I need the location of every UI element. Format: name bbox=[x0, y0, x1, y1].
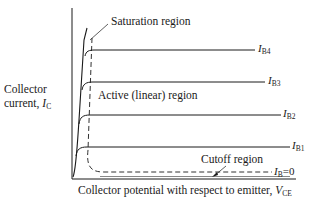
saturation-leader bbox=[90, 24, 108, 40]
curve-label-ib3: IB3 bbox=[268, 74, 280, 88]
y-axis-label-line1: Collector bbox=[4, 82, 51, 96]
y-axis-label-line2: current, IC bbox=[4, 96, 51, 114]
cutoff-region-label: Cutoff region bbox=[201, 153, 263, 166]
curve-ib2 bbox=[79, 115, 281, 124]
curve-label-ib4: IB4 bbox=[258, 42, 270, 56]
curve-label-ib0: IB=0 bbox=[274, 165, 294, 179]
curve-label-ib1: IB1 bbox=[292, 139, 304, 153]
saturation-region-label: Saturation region bbox=[111, 15, 191, 28]
curve-label-ib2: IB2 bbox=[283, 107, 295, 121]
curve-ib4 bbox=[85, 50, 255, 56]
saturation-cutoff-dashed-line bbox=[88, 38, 272, 172]
saturation-boundary bbox=[73, 28, 87, 177]
y-axis-label: Collector current, IC bbox=[4, 82, 51, 114]
x-axis-label: Collector potential with respect to emit… bbox=[78, 184, 292, 198]
active-region-label: Active (linear) region bbox=[98, 89, 198, 102]
